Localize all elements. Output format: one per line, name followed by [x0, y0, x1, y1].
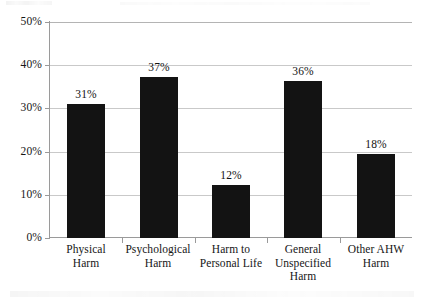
- gridline: [50, 22, 412, 23]
- x-axis-category-label: PhysicalHarm: [46, 243, 126, 270]
- bar: [357, 154, 395, 238]
- y-axis-tick-label: 20%: [0, 146, 42, 158]
- x-axis-category-label-line: Personal Life: [191, 257, 271, 271]
- x-axis-category-label-line: Harm to: [191, 243, 271, 257]
- bar-value-label: 31%: [56, 89, 116, 101]
- gridline: [50, 65, 412, 66]
- y-axis-tick-label: 0%: [0, 232, 42, 244]
- x-axis-category-label-line: Other AHW: [336, 243, 416, 257]
- bar-value-label: 36%: [273, 66, 333, 78]
- x-axis-category-label-line: Physical: [46, 243, 126, 257]
- y-axis-tick-label: 10%: [0, 189, 42, 201]
- x-axis-category-label-line: Harm: [263, 270, 343, 284]
- x-axis-category-label: Harm toPersonal Life: [191, 243, 271, 270]
- x-axis-category-label-line: Harm: [46, 257, 126, 271]
- bar-value-label: 37%: [129, 62, 189, 74]
- y-axis-tick-label: 50%: [0, 16, 42, 28]
- x-axis-category-label-line: Psychological: [118, 243, 198, 257]
- x-axis-category-label-line: General: [263, 243, 343, 257]
- scan-artifact-top: [6, 1, 52, 5]
- bar: [67, 104, 105, 238]
- x-axis-category-label: PsychologicalHarm: [118, 243, 198, 270]
- x-axis-category-label: GeneralUnspecifiedHarm: [263, 243, 343, 284]
- scan-artifact-top-right: [120, 2, 370, 5]
- x-axis-category-label: Other AHWHarm: [336, 243, 416, 270]
- x-axis-category-label-line: Harm: [118, 257, 198, 271]
- bar: [212, 185, 250, 238]
- bar-value-label: 18%: [346, 139, 406, 151]
- bar-value-label: 12%: [201, 170, 261, 182]
- bar: [284, 81, 322, 238]
- bar-chart: 0%10%20%30%40%50% 31%37%12%36%18% Physic…: [0, 0, 430, 302]
- y-axis-line: [49, 21, 50, 238]
- bar: [140, 77, 178, 238]
- scan-artifact-bottom: [10, 291, 414, 297]
- plot-area: 31%37%12%36%18%: [50, 22, 412, 238]
- x-axis-category-label-line: Harm: [336, 257, 416, 271]
- y-axis-tick-label: 30%: [0, 102, 42, 114]
- y-axis-tick: [45, 238, 50, 239]
- x-axis-category-label-line: Unspecified: [263, 257, 343, 271]
- y-axis-tick-label: 40%: [0, 59, 42, 71]
